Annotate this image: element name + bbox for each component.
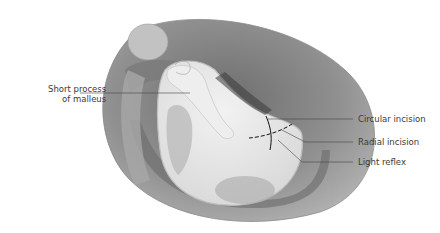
tympanic-membrane-diagram: Short process of malleus Circular incisi… <box>0 0 440 233</box>
malleus-head <box>128 24 168 60</box>
label-short-process-line2: of malleus <box>48 94 106 104</box>
membrane-shadow <box>215 176 275 204</box>
label-radial-incision: Radial incision <box>358 137 419 147</box>
label-light-reflex: Light reflex <box>358 157 406 167</box>
label-circular-incision: Circular incision <box>358 114 426 124</box>
label-short-process-line1: Short process <box>48 84 106 94</box>
label-short-process: Short process of malleus <box>48 84 106 104</box>
